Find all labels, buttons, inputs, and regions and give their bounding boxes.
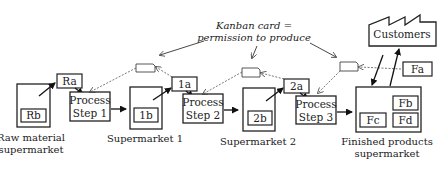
svg-text:Step 2: Step 2 xyxy=(186,109,220,121)
supermarket-1: 1b Supermarket 1 xyxy=(107,87,183,144)
caption-fin-2: supermarket xyxy=(355,148,420,159)
callout-arrow-2 xyxy=(252,46,257,58)
callout-arrow-3 xyxy=(310,43,336,57)
callout-arrow-1 xyxy=(160,41,204,55)
kanban-card-1 xyxy=(136,64,155,72)
svg-text:Process: Process xyxy=(182,96,223,108)
caption-raw-2: supermarket xyxy=(0,144,63,155)
item-fd: Fd xyxy=(398,114,412,126)
item-fc: Fc xyxy=(366,114,379,126)
1a-to-card1 xyxy=(156,67,172,77)
supermarket-2: 2b Supermarket 2 xyxy=(220,88,296,147)
item-fb: Fb xyxy=(398,97,412,109)
kanban-callout: Kanban card = permission to produce xyxy=(160,20,336,58)
supermarket-finished: Fb Fc Fd Finished products supermarket xyxy=(341,87,433,159)
item-fa: Fa xyxy=(411,63,424,75)
customers-label: Customers xyxy=(373,28,430,40)
card3-to-p3 xyxy=(318,71,340,93)
caption-s2: Supermarket 2 xyxy=(220,136,296,147)
caption-fin-1: Finished products xyxy=(341,136,433,147)
kanban-card-2 xyxy=(242,68,260,77)
customers-node: Customers xyxy=(369,15,436,46)
process-step-1: Process Step 1 xyxy=(69,92,110,121)
item-ra: Ra xyxy=(62,75,76,87)
svg-text:Process: Process xyxy=(295,98,336,110)
svg-text:Step 3: Step 3 xyxy=(299,111,333,123)
arrow-fin-to-customer xyxy=(390,49,399,86)
item-1b: 1b xyxy=(139,109,153,121)
item-rb: Rb xyxy=(26,109,41,121)
item-1a: 1a xyxy=(178,78,191,90)
kanban-card-3 xyxy=(340,62,358,71)
2a-to-card2 xyxy=(261,73,284,79)
callout-line-1: Kanban card = xyxy=(215,20,292,31)
arrow-customer-to-fin xyxy=(372,55,383,85)
caption-s1: Supermarket 1 xyxy=(107,133,183,144)
item-2b: 2b xyxy=(253,112,267,124)
process-step-3: Process Step 3 xyxy=(295,96,336,124)
card2-to-p2 xyxy=(203,72,242,94)
caption-raw-1: Raw material xyxy=(0,132,65,143)
svg-text:Process: Process xyxy=(69,94,110,106)
supermarket-raw: Rb Raw material supermarket xyxy=(0,84,65,155)
svg-text:Step 1: Step 1 xyxy=(73,107,107,119)
card1-to-p1 xyxy=(90,68,136,92)
process-step-2: Process Step 2 xyxy=(182,94,223,123)
callout-line-2: permission to produce xyxy=(197,32,311,43)
item-2a: 2a xyxy=(290,80,303,92)
kanban-diagram: Kanban card = permission to produce Cust… xyxy=(0,0,445,173)
